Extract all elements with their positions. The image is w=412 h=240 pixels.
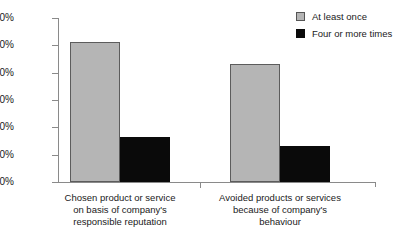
bar-at-least-once-group-2 xyxy=(230,64,280,182)
y-axis-tick xyxy=(52,155,58,156)
plot-area: 60%50%40%30%20%10%0% xyxy=(58,18,376,182)
category-separator-tick xyxy=(200,182,201,188)
y-axis-tick-label: 60% xyxy=(0,13,14,23)
y-axis-tick xyxy=(52,18,58,19)
y-axis-tick-label: 20% xyxy=(0,122,14,132)
y-axis-line xyxy=(58,18,59,182)
y-axis-tick xyxy=(52,45,58,46)
y-axis-tick xyxy=(52,182,58,183)
y-axis-tick-label: 30% xyxy=(0,95,14,105)
y-axis-tick xyxy=(52,127,58,128)
x-axis-line xyxy=(58,182,376,183)
bar-four-or-more-times-group-2 xyxy=(280,146,330,182)
bar-chart: At least once Four or more times 60%50%4… xyxy=(0,0,412,240)
y-axis-tick-label: 50% xyxy=(0,40,14,50)
y-axis-tick-label: 40% xyxy=(0,68,14,78)
x-axis-end-tick xyxy=(375,182,376,187)
bar-four-or-more-times-group-1 xyxy=(120,137,170,182)
y-axis-tick-label: 10% xyxy=(0,150,14,160)
x-axis-category-label-1: Chosen product or service on basis of co… xyxy=(30,192,210,228)
y-axis-tick xyxy=(52,73,58,74)
bar-at-least-once-group-1 xyxy=(70,42,120,182)
x-axis-category-label-2: Avoided products or services because of … xyxy=(190,192,370,228)
y-axis-tick-label: 0% xyxy=(0,177,14,187)
y-axis-tick xyxy=(52,100,58,101)
